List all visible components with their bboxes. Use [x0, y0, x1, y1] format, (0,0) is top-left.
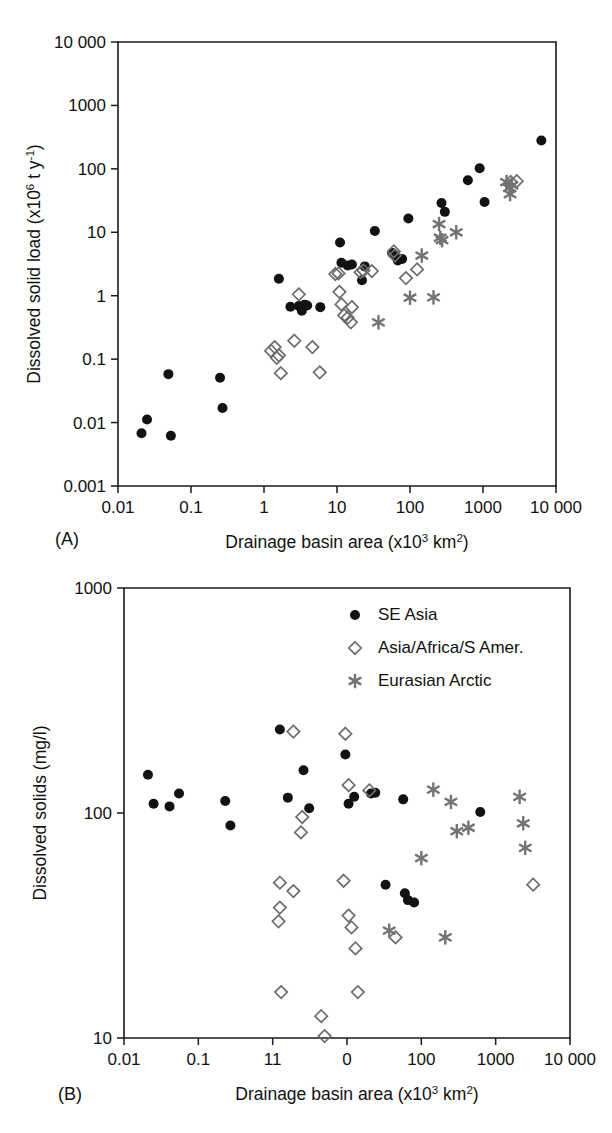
- data-point-se-asia: [166, 431, 176, 441]
- data-point-se-asia: [174, 789, 184, 799]
- data-point-asia-africa-s-amer: [318, 1030, 330, 1042]
- data-point-asia-africa-s-amer: [349, 942, 361, 954]
- data-point-se-asia: [225, 820, 235, 830]
- data-point-se-asia: [163, 369, 173, 379]
- x-tick-label: 0.1: [179, 498, 203, 517]
- legend-item[interactable]: Asia/Africa/S Amer.: [349, 638, 524, 657]
- y-tick-label: 0.01: [73, 414, 106, 433]
- data-point-asia-africa-s-amer: [288, 335, 300, 347]
- data-point-asia-africa-s-amer: [287, 885, 299, 897]
- x-tick-label: 100: [407, 1050, 435, 1069]
- x-axis-title: Drainage basin area (x103 km2): [225, 532, 468, 552]
- data-point-eurasian-arctic: [451, 824, 463, 838]
- data-point-se-asia: [436, 198, 446, 208]
- data-layer: [137, 135, 547, 440]
- x-tick-label: 10: [328, 498, 347, 517]
- data-point-eurasian-arctic: [450, 225, 462, 239]
- x-tick-label: 0.01: [101, 498, 134, 517]
- data-point-eurasian-arctic: [517, 816, 529, 830]
- x-tick-label: 1: [259, 498, 268, 517]
- x-tick-label: 0.1: [187, 1050, 211, 1069]
- x-tick-label: 100: [396, 498, 424, 517]
- data-point-asia-africa-s-amer: [296, 811, 308, 823]
- data-point-eurasian-arctic: [513, 790, 525, 804]
- panel-b-plot: 0.010.1110100100010 000101001000Drainage…: [0, 560, 612, 1133]
- data-point-eurasian-arctic: [415, 851, 427, 865]
- x-tick-label: 10 000: [544, 1050, 596, 1069]
- data-point-se-asia: [275, 725, 285, 735]
- legend-item[interactable]: SE Asia: [350, 605, 438, 624]
- y-axis-title: Dissolved solid load (x106 t y-1): [24, 144, 44, 383]
- y-tick-label: 100: [78, 160, 106, 179]
- data-point-asia-africa-s-amer: [315, 1010, 327, 1022]
- data-point-se-asia: [403, 213, 413, 223]
- data-point-se-asia: [304, 803, 314, 813]
- data-point-asia-africa-s-amer: [271, 352, 283, 364]
- data-point-se-asia: [398, 794, 408, 804]
- panel-label: (B): [58, 1084, 82, 1104]
- data-point-asia-africa-s-amer: [274, 877, 286, 889]
- y-tick-label: 1000: [74, 579, 112, 598]
- data-point-se-asia: [335, 238, 345, 248]
- data-point-asia-africa-s-amer: [275, 367, 287, 379]
- data-point-eurasian-arctic: [349, 674, 361, 688]
- data-point-asia-africa-s-amer: [342, 779, 354, 791]
- x-tick-label: 1000: [464, 498, 502, 517]
- data-point-se-asia: [370, 226, 380, 236]
- y-axis-title: Dissolved solids (mg/l): [30, 725, 50, 900]
- data-point-eurasian-arctic: [383, 923, 395, 937]
- data-point-se-asia: [475, 807, 485, 817]
- y-tick-label: 0.001: [63, 477, 106, 496]
- data-point-asia-africa-s-amer: [274, 901, 286, 913]
- data-point-se-asia: [349, 792, 359, 802]
- data-point-asia-africa-s-amer: [342, 909, 354, 921]
- y-tick-label: 1: [97, 287, 106, 306]
- data-point-se-asia: [302, 301, 312, 311]
- data-point-asia-africa-s-amer: [306, 341, 318, 353]
- data-point-asia-africa-s-amer: [335, 298, 347, 310]
- data-point-asia-africa-s-amer: [314, 366, 326, 378]
- data-point-asia-africa-s-amer: [527, 879, 539, 891]
- legend-label: Eurasian Arctic: [378, 671, 492, 690]
- data-point-se-asia: [350, 610, 360, 620]
- data-point-asia-africa-s-amer: [295, 826, 307, 838]
- data-point-eurasian-arctic: [416, 248, 428, 262]
- panel-a-plot: 0.010.1110100100010 0000.0010.010.111010…: [0, 0, 612, 560]
- data-point-eurasian-arctic: [519, 841, 531, 855]
- legend-label: SE Asia: [378, 605, 438, 624]
- data-point-se-asia: [137, 428, 147, 438]
- data-point-eurasian-arctic: [462, 821, 474, 835]
- y-tick-label: 100: [84, 804, 112, 823]
- data-point-se-asia: [480, 197, 490, 207]
- legend-label: Asia/Africa/S Amer.: [378, 638, 524, 657]
- series-se-asia: [143, 725, 485, 908]
- data-point-asia-africa-s-amer: [273, 349, 285, 361]
- x-tick-label: 0: [342, 1050, 351, 1069]
- data-point-se-asia: [475, 163, 485, 173]
- data-point-se-asia: [149, 799, 159, 809]
- data-point-se-asia: [381, 880, 391, 890]
- series-asia-africa-s-amer: [272, 725, 539, 1042]
- data-point-asia-africa-s-amer: [293, 288, 305, 300]
- data-point-se-asia: [315, 302, 325, 312]
- data-point-eurasian-arctic: [427, 782, 439, 796]
- y-tick-label: 10: [87, 223, 106, 242]
- data-point-eurasian-arctic: [439, 930, 451, 944]
- data-point-se-asia: [217, 403, 227, 413]
- x-tick-label: 0.01: [107, 1050, 140, 1069]
- data-point-asia-africa-s-amer: [339, 728, 351, 740]
- data-point-eurasian-arctic: [404, 291, 416, 305]
- data-point-asia-africa-s-amer: [272, 915, 284, 927]
- data-point-se-asia: [409, 898, 419, 908]
- legend-item[interactable]: Eurasian Arctic: [349, 671, 492, 690]
- data-point-se-asia: [536, 135, 546, 145]
- x-axis-title: Drainage basin area (x103 km2): [235, 1084, 478, 1104]
- panel-a: 0.010.1110100100010 0000.0010.010.111010…: [0, 0, 612, 560]
- legend: SE AsiaAsia/Africa/S Amer.Eurasian Arcti…: [349, 605, 524, 690]
- data-point-se-asia: [440, 207, 450, 217]
- data-point-asia-africa-s-amer: [337, 875, 349, 887]
- figure-container: 0.010.1110100100010 0000.0010.010.111010…: [0, 0, 612, 1133]
- x-tick-label: 1000: [477, 1050, 515, 1069]
- panel-b: 0.010.1110100100010 000101001000Drainage…: [0, 560, 612, 1133]
- data-point-se-asia: [283, 793, 293, 803]
